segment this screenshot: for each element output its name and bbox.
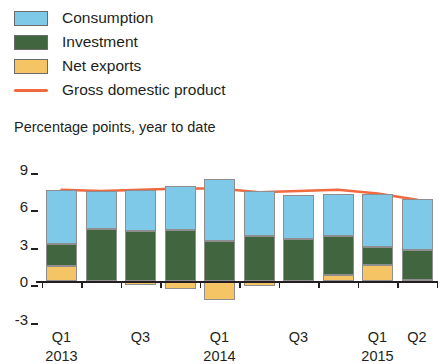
x-year-label: 2013	[37, 349, 87, 364]
y-tick-label-0: 0	[2, 274, 28, 289]
x-year-label: 2015	[353, 349, 403, 364]
bar-segment	[362, 247, 393, 265]
bar-segment	[86, 229, 117, 282]
x-tick	[397, 283, 398, 288]
bar-segment	[244, 191, 275, 236]
x-tick	[437, 283, 438, 288]
plot-area: 9630-3Q1Q3Q1Q3Q1Q2201320142015	[0, 0, 440, 364]
bar-segment	[46, 190, 77, 244]
x-tick	[42, 283, 43, 288]
x-tick	[239, 283, 240, 288]
bar-segment	[204, 241, 235, 281]
zero-axis-line	[36, 281, 438, 283]
y-tick-label-9: 9	[2, 162, 28, 177]
y-tick-dash-3	[31, 248, 38, 250]
bar-segment	[362, 265, 393, 281]
bar-segment	[283, 239, 314, 282]
y-tick-dash-6	[31, 210, 38, 212]
bar-segment	[204, 281, 235, 300]
bar-segment	[362, 194, 393, 248]
bar-segment	[402, 250, 433, 280]
y-tick-label--3: -3	[2, 312, 28, 327]
y-tick-dash-0	[31, 285, 38, 287]
bar-segment	[204, 179, 235, 242]
x-tick	[121, 283, 122, 288]
bar-segment	[244, 236, 275, 281]
x-tick-label: Q3	[279, 330, 319, 345]
bar-segment	[46, 244, 77, 267]
y-tick-label-3: 3	[2, 237, 28, 252]
y-tick-dash--3	[31, 323, 38, 325]
bar-segment	[283, 195, 314, 239]
bar-segment	[125, 231, 156, 281]
x-tick-label: Q1	[358, 330, 398, 345]
y-tick-dash-9	[31, 173, 38, 175]
x-tick-label: Q3	[121, 330, 161, 345]
bar-segment	[165, 186, 196, 230]
x-tick-label: Q2	[397, 330, 437, 345]
x-tick	[200, 283, 201, 288]
bar-segment	[323, 236, 354, 275]
bar-segment	[86, 191, 117, 229]
bar-segment	[165, 230, 196, 281]
x-tick	[358, 283, 359, 288]
x-tick	[81, 283, 82, 288]
x-tick-label: Q1	[42, 330, 82, 345]
bar-segment	[125, 190, 156, 231]
x-tick	[318, 283, 319, 288]
bar-segment	[46, 266, 77, 281]
x-year-label: 2014	[195, 349, 245, 364]
y-tick-label-6: 6	[2, 199, 28, 214]
chart-figure: ConsumptionInvestmentNet exportsGross do…	[0, 0, 440, 364]
x-tick-label: Q1	[200, 330, 240, 345]
x-tick	[279, 283, 280, 288]
bar-segment	[402, 199, 433, 250]
x-tick	[160, 283, 161, 288]
bar-segment	[323, 194, 354, 237]
